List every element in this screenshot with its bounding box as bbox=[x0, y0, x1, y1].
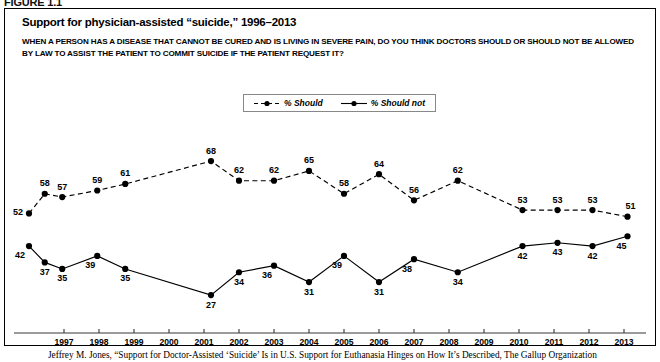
data-point-label: 68 bbox=[206, 146, 216, 156]
data-point-label: 36 bbox=[262, 270, 272, 280]
data-point bbox=[208, 158, 214, 164]
data-point bbox=[306, 279, 312, 285]
series-line-should-not bbox=[29, 236, 628, 295]
data-point-label: 53 bbox=[517, 195, 527, 205]
data-point bbox=[42, 191, 48, 197]
x-axis-tick-label: 2008 bbox=[439, 337, 458, 347]
data-point bbox=[26, 210, 32, 216]
x-axis-tick-label: 2012 bbox=[579, 337, 598, 347]
data-point-label: 53 bbox=[587, 195, 597, 205]
data-point-label: 35 bbox=[120, 273, 130, 283]
x-axis-tick-label: 2002 bbox=[229, 337, 248, 347]
data-point bbox=[59, 266, 65, 272]
data-point bbox=[554, 240, 560, 246]
data-point-label: 35 bbox=[57, 273, 67, 283]
data-point bbox=[122, 181, 128, 187]
data-point bbox=[271, 263, 277, 269]
data-point bbox=[341, 253, 347, 259]
data-point bbox=[519, 243, 525, 249]
data-point bbox=[236, 269, 242, 275]
data-point-label: 61 bbox=[120, 168, 130, 178]
data-point bbox=[455, 269, 461, 275]
data-point-label: 51 bbox=[625, 201, 635, 211]
x-axis-tick-label: 1997 bbox=[54, 337, 73, 347]
data-point-label: 53 bbox=[552, 195, 562, 205]
data-point-label: 62 bbox=[453, 165, 463, 175]
data-point bbox=[589, 243, 595, 249]
x-axis-tick-label: 2013 bbox=[614, 337, 633, 347]
data-point-label: 34 bbox=[453, 277, 463, 287]
data-point-label: 52 bbox=[13, 207, 23, 217]
data-point-label: 58 bbox=[339, 178, 349, 188]
x-axis-tick-label: 2004 bbox=[299, 337, 318, 347]
data-point-label: 59 bbox=[92, 175, 102, 185]
x-axis-tick-label: 2000 bbox=[159, 337, 178, 347]
data-point bbox=[341, 191, 347, 197]
x-axis-tick-label: 1998 bbox=[89, 337, 108, 347]
data-point-label: 62 bbox=[234, 165, 244, 175]
x-axis-tick-label: 2001 bbox=[194, 337, 213, 347]
data-point bbox=[376, 171, 382, 177]
data-point bbox=[554, 207, 560, 213]
data-point-label: 56 bbox=[409, 185, 419, 195]
data-point bbox=[624, 214, 630, 220]
data-point-label: 42 bbox=[587, 251, 597, 261]
series-line-should bbox=[29, 161, 628, 217]
data-point-label: 65 bbox=[304, 155, 314, 165]
x-axis-tick-label: 2010 bbox=[509, 337, 528, 347]
figure-source-caption: Jeffrey M. Jones, “Support for Doctor-As… bbox=[48, 350, 648, 360]
data-point-label: 38 bbox=[402, 264, 412, 274]
data-point bbox=[94, 253, 100, 259]
data-point-label: 34 bbox=[234, 277, 244, 287]
data-point-label: 62 bbox=[269, 165, 279, 175]
data-point-label: 43 bbox=[552, 247, 562, 257]
x-axis-tick-label: 2003 bbox=[264, 337, 283, 347]
data-point-label: 27 bbox=[206, 300, 216, 310]
data-point-label: 31 bbox=[374, 287, 384, 297]
x-axis-tick-label: 2011 bbox=[545, 337, 564, 347]
data-point bbox=[589, 207, 595, 213]
x-axis-tick-label: 2006 bbox=[369, 337, 388, 347]
data-point bbox=[271, 178, 277, 184]
data-point bbox=[306, 168, 312, 174]
data-point-label: 64 bbox=[374, 159, 384, 169]
data-point bbox=[236, 178, 242, 184]
x-axis-tick-label: 1999 bbox=[124, 337, 143, 347]
data-point-label: 58 bbox=[40, 178, 50, 188]
data-point bbox=[42, 259, 48, 265]
data-point-label: 39 bbox=[332, 260, 342, 270]
data-point-label: 42 bbox=[517, 251, 527, 261]
data-point bbox=[59, 194, 65, 200]
data-point bbox=[455, 178, 461, 184]
data-point-label: 31 bbox=[304, 287, 314, 297]
data-point-label: 39 bbox=[85, 260, 95, 270]
data-point bbox=[94, 187, 100, 193]
data-point-label: 42 bbox=[15, 250, 25, 260]
x-axis-tick-label: 2009 bbox=[474, 337, 493, 347]
data-point bbox=[208, 292, 214, 298]
data-point-label: 37 bbox=[40, 267, 50, 277]
x-axis-tick-label: 2005 bbox=[334, 337, 353, 347]
data-point bbox=[376, 279, 382, 285]
data-point bbox=[26, 243, 32, 249]
data-point bbox=[624, 233, 630, 239]
data-point bbox=[122, 266, 128, 272]
line-chart-plot: 1997199819992000200120022003200420052006… bbox=[0, 0, 660, 362]
x-axis-tick-label: 2007 bbox=[404, 337, 423, 347]
data-point bbox=[519, 207, 525, 213]
data-point-label: 45 bbox=[616, 241, 626, 251]
data-point-label: 57 bbox=[57, 182, 67, 192]
data-point bbox=[411, 197, 417, 203]
data-point bbox=[411, 256, 417, 262]
